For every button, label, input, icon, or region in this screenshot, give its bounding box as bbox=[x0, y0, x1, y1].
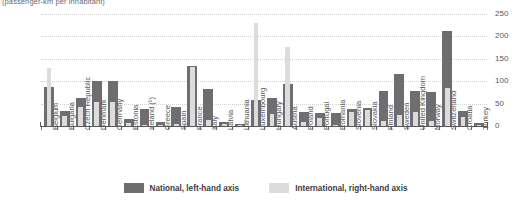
chart-legend: National, left-hand axis International, … bbox=[0, 183, 531, 193]
bar-international bbox=[94, 102, 99, 126]
bar-international bbox=[142, 125, 147, 126]
y-axis-right-tick-label: 100 bbox=[495, 77, 508, 85]
bar-international bbox=[47, 68, 52, 126]
bar-international bbox=[206, 120, 211, 126]
bar-international bbox=[126, 123, 131, 126]
x-axis-category-label: Turkey bbox=[482, 107, 490, 130]
y-axis-right-tick-label: 0 bbox=[495, 122, 499, 130]
y-axis-right-tick-label: 150 bbox=[495, 55, 508, 63]
legend-swatch-international bbox=[269, 183, 289, 193]
legend-label-national: National, left-hand axis bbox=[150, 184, 240, 193]
bar-international bbox=[429, 121, 434, 126]
bar-international bbox=[190, 67, 195, 126]
bar-national bbox=[140, 109, 150, 126]
bar-international bbox=[317, 118, 322, 126]
bar-group bbox=[168, 14, 184, 126]
y-axis-right-tick-label: 50 bbox=[495, 100, 504, 108]
legend-swatch-national bbox=[124, 183, 144, 193]
bar-international bbox=[174, 124, 179, 126]
legend-item-international[interactable]: International, right-hand axis bbox=[269, 183, 407, 193]
chart-subtitle: (passenger-km per inhabitant) bbox=[2, 0, 105, 6]
bar-international bbox=[445, 88, 450, 126]
bar-international bbox=[365, 110, 370, 126]
y-axis-right-tick-label: 200 bbox=[495, 32, 508, 40]
legend-item-national[interactable]: National, left-hand axis bbox=[124, 183, 240, 193]
bar-international bbox=[461, 117, 466, 126]
bar-international bbox=[397, 115, 402, 126]
bar-international bbox=[78, 107, 83, 126]
bar-international bbox=[222, 124, 227, 126]
bar-international bbox=[349, 112, 354, 126]
bar-international bbox=[413, 112, 418, 126]
bar-international bbox=[62, 116, 67, 126]
y-axis-left-cap bbox=[40, 122, 41, 127]
x-axis-category-label: Latvia bbox=[227, 110, 235, 130]
bar-group bbox=[200, 14, 216, 126]
bar-international bbox=[301, 122, 306, 126]
bar-international bbox=[381, 121, 386, 126]
bar-international bbox=[285, 47, 290, 126]
bar-international bbox=[110, 102, 115, 126]
bar-international bbox=[333, 125, 338, 126]
bar-international bbox=[158, 125, 163, 126]
y-axis-right-tick-label: 250 bbox=[495, 10, 508, 18]
bar-international bbox=[254, 23, 259, 126]
bar-international bbox=[238, 125, 243, 126]
bar-international bbox=[477, 125, 482, 126]
legend-label-international: International, right-hand axis bbox=[295, 184, 407, 193]
bar-international bbox=[270, 114, 275, 126]
